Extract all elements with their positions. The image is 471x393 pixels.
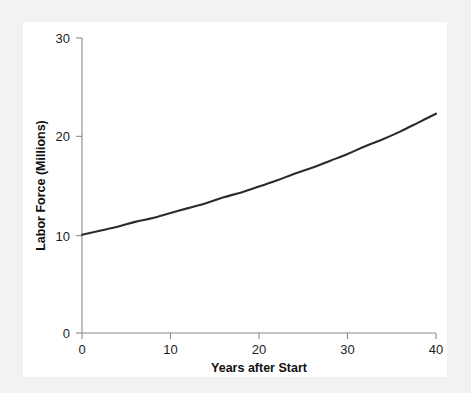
x-tick-label-30: 30 [340,342,354,357]
y-tick-label-10: 10 [56,229,70,244]
x-tick-label-40: 40 [429,342,443,357]
y-axis-ticks [76,38,82,333]
y-tick-label-30: 30 [56,31,70,46]
y-axis-title: Labor Force (Millions) [34,120,48,251]
x-axis-title: Years after Start [211,361,308,375]
labor-force-curve [82,114,436,235]
chart-card: 0 10 20 30 0 10 20 30 40 Years after Sta… [23,22,447,377]
line-chart: 0 10 20 30 0 10 20 30 40 Years after Sta… [23,22,447,377]
y-axis-tick-labels: 0 10 20 30 [56,31,70,341]
x-axis-tick-labels: 0 10 20 30 40 [78,342,443,357]
x-tick-label-10: 10 [163,342,177,357]
x-tick-label-0: 0 [78,342,85,357]
x-axis-ticks [82,333,436,339]
y-tick-label-0: 0 [63,326,70,341]
x-tick-label-20: 20 [252,342,266,357]
y-tick-label-20: 20 [56,129,70,144]
